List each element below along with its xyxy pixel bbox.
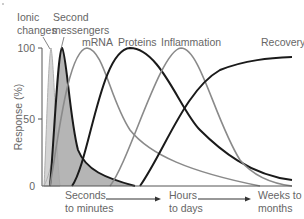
phase-2-line-1: Hours — [169, 189, 197, 201]
phase-arrow-2-head — [245, 197, 251, 202]
tick-label-100: 100 — [17, 42, 35, 54]
response-chart: 100 50 0 Response (%) Ionic changes Seco… — [0, 0, 304, 219]
phase-3-line-2: months — [258, 202, 292, 214]
label-proteins: Proteins — [118, 36, 157, 48]
label-second-2: messengers — [52, 24, 109, 36]
corner-dot — [2, 3, 4, 5]
phase-3-line-1: Weeks to — [258, 189, 302, 201]
tick-label-0: 0 — [29, 180, 35, 192]
label-ionic-2: changes — [17, 24, 57, 36]
phase-1-line-2: to minutes — [65, 202, 113, 214]
label-second-1: Second — [53, 11, 89, 23]
label-recovery: Recovery — [261, 36, 304, 48]
y-axis-label: Response (%) — [12, 84, 24, 151]
phase-arrow-1-head — [155, 197, 161, 202]
label-inflammation: Inflammation — [161, 36, 221, 48]
label-ionic-1: Ionic — [17, 11, 39, 23]
phase-1-line-1: Seconds — [65, 189, 106, 201]
inflammation-curve — [110, 48, 292, 186]
recovery-curve — [140, 57, 292, 186]
leader-ionic — [43, 37, 50, 49]
tick-label-50: 50 — [23, 113, 35, 125]
label-mrna: mRNA — [82, 36, 113, 48]
phase-2-line-2: to days — [169, 202, 203, 214]
